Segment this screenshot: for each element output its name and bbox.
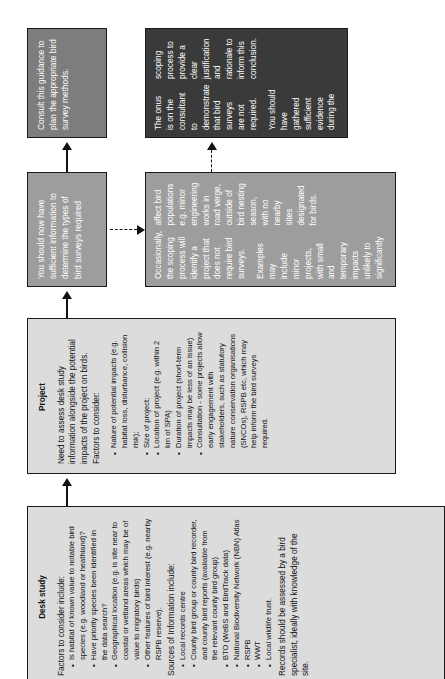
list-item: National Biodiversity Network (NBN) Atla… [232, 518, 243, 667]
list-item: Is habitat of known value to notable bir… [67, 518, 89, 667]
list-item: BTO (WeBS and BirdTrack data) [221, 518, 232, 667]
list-item: Nature of potential impacts (e.g. habita… [109, 330, 141, 455]
node-project: Project Need to assess desk study inform… [27, 318, 396, 474]
node-sufficient-info: You should now have sufficient informati… [27, 172, 107, 287]
connector-sufficient-info-to-consult-guidance-arrow [62, 142, 72, 150]
connector-desk-study-to-project-line [66, 486, 68, 507]
connector-no-survey-to-onus-arrow [207, 142, 217, 150]
list-item: WWT [253, 518, 264, 667]
connector-no-survey-to-onus-line [211, 150, 212, 172]
sufficient-info-text: You should now have sufficient informati… [35, 182, 84, 279]
list-item: Have priority species been identified in… [89, 518, 111, 667]
node-desk-study: Desk study Factors to consider include: … [27, 506, 445, 679]
desk-study-sources-list: Local records centre County bird group o… [178, 518, 275, 676]
connector-project-to-sufficient-info-arrow [62, 291, 72, 299]
desk-study-closing: Records should be assessed by a bird spe… [277, 518, 312, 676]
desk-study-factor-list: Is habitat of known value to notable bir… [67, 518, 164, 676]
connector-sufficient-info-to-no-survey-arrow [137, 225, 145, 235]
node-onus: The onus is on the consultant to demonst… [145, 28, 348, 138]
connector-sufficient-info-to-no-survey-line [110, 229, 137, 230]
connector-sufficient-info-to-consult-guidance-line [66, 150, 68, 172]
list-item: Local records centre [178, 518, 189, 667]
list-item: Other features of bird interest (e.g. ne… [143, 518, 165, 667]
node-consult-guidance: Consult this guidance to plan the approp… [27, 28, 107, 138]
list-item: Consultation - some projects allow early… [195, 330, 270, 455]
list-item: Duration of project (short-term impacts … [174, 330, 196, 455]
connector-project-to-sufficient-info-line [66, 299, 68, 319]
onus-paragraph-1: The onus is on the consultant to demonst… [153, 89, 260, 130]
desk-study-sources-intro: Sources of Information include: [166, 518, 178, 676]
consult-guidance-text: Consult this guidance to plan the approp… [35, 38, 72, 130]
list-item: Local wildlife trust. [264, 518, 275, 667]
desk-study-title: Desk study [37, 518, 49, 676]
connector-desk-study-to-project-arrow [62, 478, 72, 486]
list-item: Geographical location (e.g. is site near… [110, 518, 142, 667]
project-intro: Need to assess desk study information al… [56, 330, 103, 464]
node-no-survey-needed: Occasionally, the scoping process will i… [145, 172, 396, 287]
no-survey-paragraph-1: Occasionally, the scoping process will i… [153, 236, 248, 280]
desk-study-intro: Factors to consider include: [56, 518, 68, 676]
list-item: Size of project; [142, 330, 153, 455]
list-item: Location of project (e.g. within 2 km of… [152, 330, 174, 455]
project-factor-list: Nature of potential impacts (e.g. habita… [109, 330, 271, 464]
project-title: Project [37, 330, 49, 464]
flowchart-canvas: Consult this guidance to plan the approp… [0, 0, 445, 679]
list-item: County bird group or county bird recorde… [189, 518, 221, 667]
list-item: RSPB [243, 518, 254, 667]
